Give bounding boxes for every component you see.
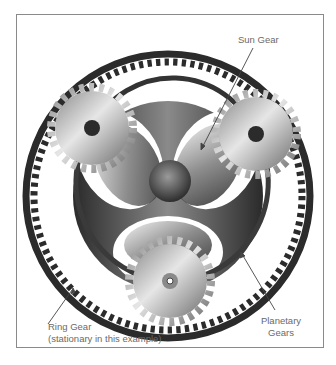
planetary-gears-label-line2: Gears	[256, 327, 306, 338]
planetary-gears-label-line1: Planetary	[256, 315, 306, 326]
ring-gear-label: Ring Gear	[48, 321, 91, 332]
ring-gear-note: (stationary in this example)	[48, 333, 162, 344]
planet-gear-left	[51, 87, 133, 169]
planetary-gear-diagram	[0, 0, 336, 365]
sun-gear-hub	[149, 160, 191, 202]
sun-gear-label: Sun Gear	[238, 34, 279, 45]
